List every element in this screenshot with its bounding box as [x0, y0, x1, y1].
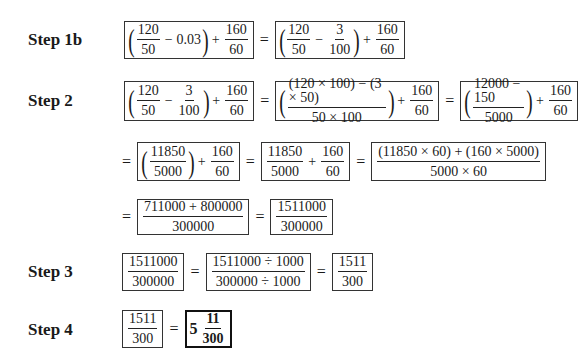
denominator: 300000 ÷ 1000 — [215, 272, 302, 289]
fraction: 12050 — [137, 23, 160, 57]
equals-sign: = — [190, 263, 199, 281]
fraction: 16060 — [211, 145, 234, 179]
expression-box: 1511000300000 — [270, 199, 332, 235]
denominator: 50 — [140, 101, 156, 118]
step-2-equation-line-3: = 711000 + 800000300000 = 1511000300000 — [122, 199, 333, 235]
expression-box: 118505000 + 16060 — [261, 142, 350, 181]
denominator: 5000 — [153, 162, 183, 179]
equals-sign: = — [317, 263, 326, 281]
minus-sign: − — [165, 32, 173, 48]
plus-sign: + — [308, 154, 316, 170]
minus-sign: − — [165, 93, 173, 109]
denominator: 60 — [228, 40, 244, 57]
fraction: 16060 — [225, 23, 248, 57]
right-paren: ) — [388, 85, 394, 117]
left-paren: ( — [279, 24, 285, 56]
fraction: 12000 − 1505000 — [473, 77, 525, 125]
denominator: 300 — [341, 272, 364, 289]
step-4-label: Step 4 — [28, 320, 73, 340]
equals-sign: = — [260, 31, 269, 49]
denominator: 100 — [328, 40, 351, 57]
expression-box: ( 118505000 ) + 16060 — [137, 142, 240, 181]
step-2-label: Step 2 — [28, 91, 73, 111]
left-paren: ( — [128, 85, 134, 117]
fraction: 12050 — [137, 84, 160, 118]
equals-sign: = — [122, 208, 131, 226]
expression-box: ( 12050 − 0.03 ) + 16060 — [124, 21, 254, 59]
fraction: 1511300 — [338, 255, 367, 289]
fraction: 711000 + 800000300000 — [143, 200, 243, 234]
fraction: 16060 — [321, 145, 344, 179]
plus-sign: + — [536, 93, 544, 109]
right-paren: ) — [202, 24, 208, 56]
plus-sign: + — [212, 32, 220, 48]
equals-sign: = — [246, 153, 255, 171]
step-2-equation-line-1: ( 12050 − 3100 ) + 16060 = ( (120 × 100)… — [124, 81, 578, 121]
left-paren: ( — [141, 146, 147, 178]
denominator: 5000 — [484, 108, 514, 125]
equals-sign: = — [122, 153, 131, 171]
fraction: 16060 — [225, 84, 248, 118]
denominator: 60 — [379, 40, 395, 57]
denominator: 60 — [325, 162, 341, 179]
numerator: 120 — [137, 84, 160, 101]
expression-box: ( 12050 − 3100 ) + 16060 — [124, 81, 254, 121]
denominator: 300000 — [131, 272, 175, 289]
right-paren: ) — [188, 146, 194, 178]
fraction: 1511000300000 — [276, 200, 326, 234]
minus-sign: − — [315, 32, 323, 48]
numerator: (11850 × 60) + (160 × 5000) — [377, 145, 540, 162]
fraction: (11850 × 60) + (160 × 5000)5000 × 60 — [377, 145, 540, 179]
numerator: 160 — [410, 84, 433, 101]
numerator: 11850 — [267, 145, 303, 162]
plus-sign: + — [397, 93, 405, 109]
denominator: 50 — [140, 40, 156, 57]
denominator: 5000 — [270, 162, 300, 179]
denominator: 300 — [202, 329, 225, 346]
fraction: 118505000 — [267, 145, 303, 179]
numerator: 160 — [211, 145, 234, 162]
right-paren: ) — [353, 24, 359, 56]
expression-box: 1511000 ÷ 1000300000 ÷ 1000 — [206, 253, 311, 291]
fraction: 12050 — [287, 23, 310, 57]
step-1b-label: Step 1b — [28, 30, 82, 50]
decimal-value: 0.03 — [177, 32, 202, 48]
left-paren: ( — [128, 24, 134, 56]
fraction: 1511000 ÷ 1000300000 ÷ 1000 — [212, 255, 305, 289]
step-1b-equation: ( 12050 − 0.03 ) + 16060 = ( 12050 − 310… — [124, 21, 405, 59]
step-3-equation: 1511000300000 = 1511000 ÷ 1000300000 ÷ 1… — [122, 253, 373, 291]
expression-box: ( 12000 − 1505000 ) + 16060 — [460, 81, 578, 121]
expression-box: (11850 × 60) + (160 × 5000)5000 × 60 — [371, 142, 546, 181]
numerator: 11850 — [150, 145, 186, 162]
numerator: 160 — [376, 23, 399, 40]
fraction: (120 × 100) − (3 × 50)50 × 100 — [288, 77, 386, 125]
expression-box: 1511300 — [122, 310, 163, 348]
fraction: 1511000300000 — [128, 255, 178, 289]
fraction: 118505000 — [150, 145, 186, 179]
numerator: 12000 − 150 — [473, 77, 525, 108]
step-2-equation-line-2: = ( 118505000 ) + 16060 = 118505000 + 16… — [122, 142, 546, 181]
numerator: 1511 — [128, 312, 157, 329]
denominator: 60 — [553, 101, 569, 118]
denominator: 5000 × 60 — [429, 162, 488, 179]
denominator: 60 — [214, 162, 230, 179]
left-paren: ( — [464, 85, 470, 117]
denominator: 300000 — [171, 217, 215, 234]
numerator: 1511000 — [276, 200, 326, 217]
numerator: 160 — [549, 84, 572, 101]
numerator: 711000 + 800000 — [143, 200, 243, 217]
denominator: 50 × 100 — [311, 108, 363, 125]
expression-box: 711000 + 800000300000 — [137, 199, 249, 235]
fraction: 11300 — [202, 312, 225, 346]
step-4-equation: 1511300 = 5 11300 — [122, 310, 232, 348]
left-paren: ( — [279, 85, 285, 117]
fraction: 1511300 — [128, 312, 157, 346]
numerator: 160 — [225, 84, 248, 101]
fraction: 16060 — [549, 84, 572, 118]
plus-sign: + — [212, 93, 220, 109]
expression-box: 1511300 — [332, 253, 373, 291]
fraction: 16060 — [376, 23, 399, 57]
step-3-label: Step 3 — [28, 262, 73, 282]
right-paren: ) — [527, 85, 533, 117]
expression-box: ( 12050 − 3100 ) + 16060 — [275, 21, 405, 59]
